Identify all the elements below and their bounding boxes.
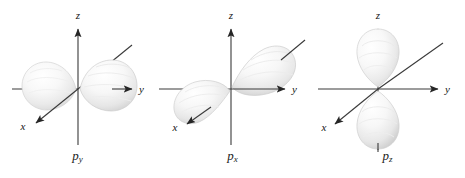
- axis-label-x: x: [321, 121, 327, 133]
- panel-px: z y x px: [155, 0, 310, 178]
- orbital-caption-px: px: [155, 148, 310, 164]
- lobe-x-negative: [174, 80, 230, 123]
- orbital-subscript: x: [234, 154, 238, 164]
- orbital-subscript: z: [389, 154, 393, 164]
- orbital-caption-py: py: [0, 148, 155, 164]
- orbital-subscript: y: [79, 154, 83, 164]
- axis-label-x: x: [20, 120, 26, 132]
- lobe-y-positive: [80, 60, 137, 111]
- lobe-y-negative: [22, 62, 76, 110]
- orbital-caption-pz: pz: [310, 148, 465, 164]
- axis-label-y: y: [444, 83, 450, 95]
- lobe-x-positive: [232, 46, 296, 95]
- p-orbital-shapes-figure: z y x py: [0, 0, 465, 178]
- axis-label-x: x: [172, 121, 178, 133]
- panel-pz: z y x pz: [310, 0, 465, 178]
- axis-label-z: z: [228, 9, 234, 21]
- orbital-symbol: p: [72, 148, 79, 163]
- panel-py: z y x py: [0, 0, 155, 178]
- lobe-z-negative: [357, 91, 399, 149]
- axis-label-z: z: [75, 9, 81, 21]
- axis-label-y: y: [138, 83, 144, 95]
- axis-label-y: y: [291, 83, 297, 95]
- orbital-symbol: p: [227, 148, 234, 163]
- axis-label-z: z: [375, 9, 381, 21]
